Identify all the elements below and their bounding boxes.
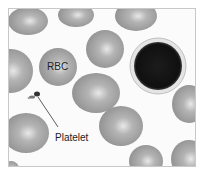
rbc-label: RBC [47,61,68,72]
micrograph-frame: RBC Platelet [8,8,196,167]
rbc-right-edge [172,85,195,123]
rbc-center-upper [86,30,124,68]
rbc-center [72,73,120,113]
rbc-bottom-corner [9,161,19,166]
lymphocyte [130,38,186,94]
rbc-top-left [9,9,48,35]
platelet-label: Platelet [55,132,88,143]
rbc-top-right [115,9,157,31]
rbc-bottom [129,145,163,166]
rbc-bottom-center [99,106,143,146]
blood-smear-image [9,9,195,166]
rbc-left-edge [9,49,33,93]
rbc-bottom-left [9,113,49,153]
rbc-top-center [58,9,94,27]
rbc-bottom-right [171,140,195,166]
